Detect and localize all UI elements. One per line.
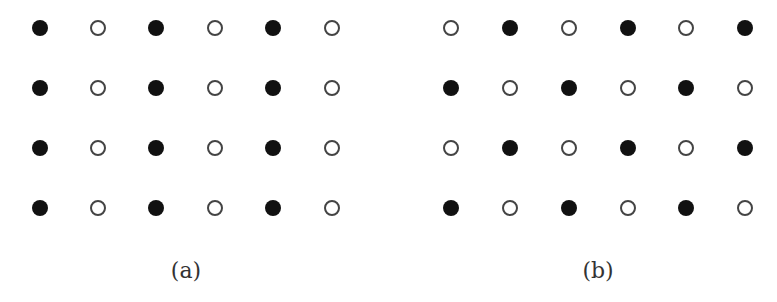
open-circle-icon xyxy=(620,200,636,216)
open-circle-icon xyxy=(737,200,753,216)
filled-circle-icon xyxy=(148,80,164,96)
filled-circle-icon xyxy=(265,20,281,36)
open-circle-icon xyxy=(207,20,223,36)
filled-circle-icon xyxy=(561,200,577,216)
filled-circle-icon xyxy=(678,200,694,216)
filled-circle-icon xyxy=(561,80,577,96)
open-circle-icon xyxy=(324,20,340,36)
open-circle-icon xyxy=(324,200,340,216)
open-circle-icon xyxy=(561,20,577,36)
open-circle-icon xyxy=(737,80,753,96)
filled-circle-icon xyxy=(443,80,459,96)
filled-circle-icon xyxy=(737,140,753,156)
filled-circle-icon xyxy=(32,200,48,216)
open-circle-icon xyxy=(90,80,106,96)
filled-circle-icon xyxy=(265,80,281,96)
open-circle-icon xyxy=(90,140,106,156)
filled-circle-icon xyxy=(678,80,694,96)
filled-circle-icon xyxy=(148,20,164,36)
open-circle-icon xyxy=(207,200,223,216)
open-circle-icon xyxy=(678,20,694,36)
open-circle-icon xyxy=(443,20,459,36)
open-circle-icon xyxy=(502,80,518,96)
open-circle-icon xyxy=(561,140,577,156)
filled-circle-icon xyxy=(32,140,48,156)
filled-circle-icon xyxy=(32,20,48,36)
open-circle-icon xyxy=(620,80,636,96)
panel-a-caption: (a) xyxy=(171,258,201,283)
filled-circle-icon xyxy=(620,20,636,36)
filled-circle-icon xyxy=(265,200,281,216)
open-circle-icon xyxy=(502,200,518,216)
filled-circle-icon xyxy=(148,200,164,216)
filled-circle-icon xyxy=(265,140,281,156)
filled-circle-icon xyxy=(620,140,636,156)
open-circle-icon xyxy=(90,200,106,216)
filled-circle-icon xyxy=(502,20,518,36)
open-circle-icon xyxy=(324,80,340,96)
filled-circle-icon xyxy=(737,20,753,36)
filled-circle-icon xyxy=(502,140,518,156)
open-circle-icon xyxy=(678,140,694,156)
panel-b-caption: (b) xyxy=(582,258,613,283)
filled-circle-icon xyxy=(443,200,459,216)
open-circle-icon xyxy=(207,80,223,96)
open-circle-icon xyxy=(443,140,459,156)
filled-circle-icon xyxy=(32,80,48,96)
open-circle-icon xyxy=(90,20,106,36)
open-circle-icon xyxy=(207,140,223,156)
open-circle-icon xyxy=(324,140,340,156)
filled-circle-icon xyxy=(148,140,164,156)
